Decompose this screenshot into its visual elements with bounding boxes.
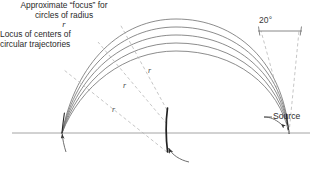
angle-dimension	[258, 27, 302, 36]
arc-3	[62, 35, 289, 133]
radius-line-top	[120, 24, 167, 110]
arc-5	[62, 51, 289, 133]
radius-label-low: r	[112, 105, 115, 115]
arc-4	[62, 43, 289, 133]
arc-1	[62, 19, 289, 133]
angle-label: 20°	[259, 15, 272, 25]
radius-line-mid	[98, 42, 167, 124]
physics-diagram: 20° Source r r r Approximate “focus” for…	[0, 0, 327, 195]
source-label: Source	[273, 111, 300, 121]
radius-label-mid: r	[123, 81, 126, 91]
diagram-canvas	[0, 0, 327, 195]
locus-callout-arrow	[169, 148, 189, 162]
radius-label-top: r	[148, 66, 151, 76]
focus-callout-arrow	[62, 134, 66, 152]
convergence-tails	[62, 113, 289, 133]
locus-of-centers-stroke	[166, 108, 167, 152]
trajectory-arcs	[62, 19, 289, 133]
